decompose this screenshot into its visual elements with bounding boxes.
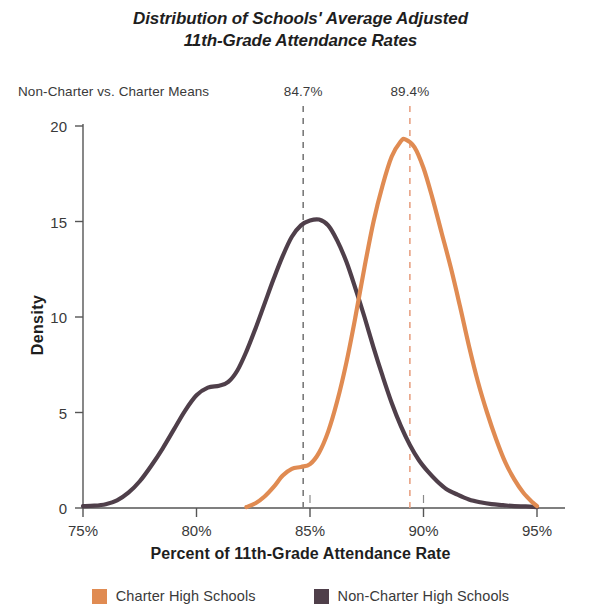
legend-item-non-charter: Non-Charter High Schools: [314, 588, 510, 604]
x-tick-label: 90%: [408, 522, 438, 539]
x-tick-label: 80%: [181, 522, 211, 539]
y-tick-label: 15: [27, 213, 67, 230]
x-tick-label: 85%: [295, 522, 325, 539]
legend-swatch-charter: [92, 589, 107, 604]
chart-legend: Charter High Schools Non-Charter High Sc…: [0, 588, 601, 604]
chart-container: Distribution of Schools' Average Adjuste…: [0, 0, 601, 615]
x-tick-label: 95%: [522, 522, 552, 539]
legend-label-charter: Charter High Schools: [116, 588, 256, 604]
x-tick-label: 75%: [68, 522, 98, 539]
x-axis-label: Percent of 11th-Grade Attendance Rate: [0, 545, 601, 563]
y-axis-label: Density: [29, 265, 47, 385]
legend-item-charter: Charter High Schools: [92, 588, 256, 604]
series-line-charter: [246, 139, 537, 507]
legend-label-non-charter: Non-Charter High Schools: [338, 588, 510, 604]
y-tick-label: 5: [27, 404, 67, 421]
y-tick-label: 0: [27, 500, 67, 517]
legend-swatch-non-charter: [314, 589, 329, 604]
y-tick-label: 20: [27, 118, 67, 135]
